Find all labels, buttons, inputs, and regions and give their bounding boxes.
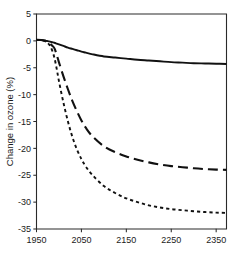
x-tick-label: 2350 [206, 235, 226, 245]
y-tick-label: -30 [18, 197, 31, 207]
x-tick-labels: 19502050215022502350 [26, 235, 226, 245]
x-tick-label: 2150 [116, 235, 136, 245]
y-axis-title: Change in ozone (%) [4, 77, 15, 166]
x-tick-label: 2050 [71, 235, 91, 245]
data-series [37, 40, 227, 213]
series-line-solid [37, 40, 227, 64]
ozone-change-chart: 19502050215022502350 50-5-10-15-20-25-30… [0, 0, 243, 260]
y-tick-labels: 50-5-10-15-20-25-30-35 [18, 9, 31, 234]
y-axis-title-text: Change in ozone (%) [4, 77, 15, 166]
series-line-short-dash [37, 40, 227, 213]
y-tick-label: -5 [23, 63, 31, 73]
y-tick-label: -35 [18, 224, 31, 234]
x-tick-label: 1950 [26, 235, 46, 245]
y-tick-label: 5 [26, 9, 31, 19]
x-tick-label: 2250 [161, 235, 181, 245]
y-tick-label: 0 [26, 36, 31, 46]
tick-marks [33, 14, 216, 232]
y-tick-label: -20 [18, 144, 31, 154]
y-tick-label: -25 [18, 170, 31, 180]
y-tick-label: -10 [18, 90, 31, 100]
chart-canvas: 19502050215022502350 50-5-10-15-20-25-30… [0, 0, 243, 260]
y-tick-label: -15 [18, 117, 31, 127]
